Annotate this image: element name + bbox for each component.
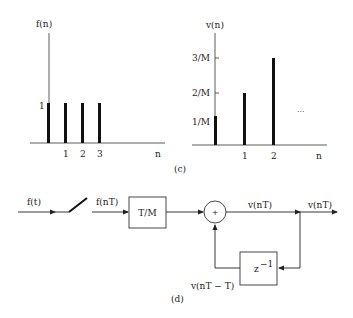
x-tick-2: 2 [80,149,86,159]
input-label: f(t) [27,197,41,207]
caption-c: (c) [174,164,186,174]
ellipsis: ... [297,105,305,114]
output-label: v(nT) [307,200,332,210]
sum-output-label: v(nT) [247,200,272,210]
x-axis-label: n [155,149,161,159]
caption-d: (d) [171,294,184,304]
y-tick-label: 1 [39,101,45,111]
delay-exponent: −1 [260,259,273,269]
delay-to-sum-arrow [215,225,240,268]
x-tick-2: 2 [271,151,277,161]
y-axis-label: v(n) [205,20,224,30]
sampled-label: f(nT) [96,197,118,207]
plot-v-n: v(n) 3/M 2/M 1/M 1 2 n ... [192,20,327,161]
sampler-switch-icon [69,198,87,212]
x-tick-1: 1 [242,151,248,161]
summer-symbol: + [212,208,219,217]
x-axis-label: n [316,151,322,161]
feedback-label: v(nT − T) [190,281,234,291]
plot-f-n: f(n) 1 1 2 3 n [30,19,165,159]
y-axis-label: f(n) [36,19,52,29]
block-diagram: f(t) f(nT) T/M + v(nT) v(nT) z −1 v(nT −… [18,197,337,291]
x-tick-1: 1 [63,149,69,159]
delay-block-label: z [254,264,259,274]
x-tick-3: 3 [97,149,103,159]
feedback-arrow [279,212,300,268]
gain-block-label: T/M [138,208,156,218]
y-tick-label-1m: 1/M [192,117,210,127]
figure-canvas: f(n) 1 1 2 3 n v(n) 3/M 2/M 1/M 1 2 n ..… [0,0,353,318]
y-tick-label-3m: 3/M [192,53,210,63]
y-tick-label-2m: 2/M [192,88,210,98]
